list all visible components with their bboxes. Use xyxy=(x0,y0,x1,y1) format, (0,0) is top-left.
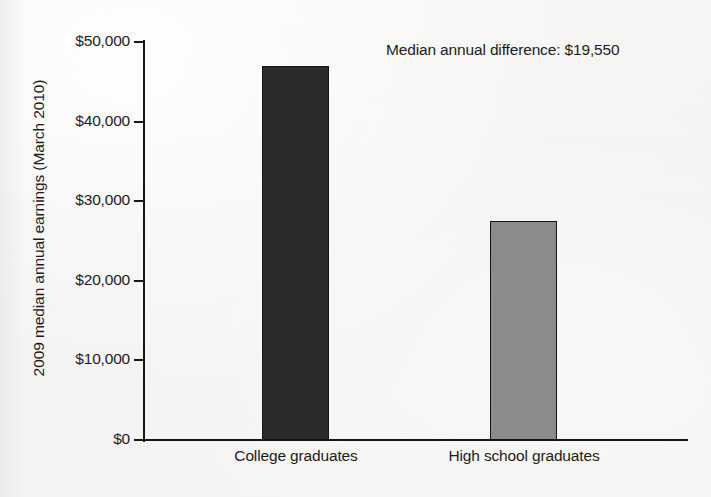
x-axis-label-high-school-graduates: High school graduates xyxy=(414,447,634,465)
y-axis-tick-label-wrap: $0 xyxy=(0,430,130,450)
y-axis-tick-mark xyxy=(134,41,144,43)
y-axis-title: 2009 median annual earnings (March 2010) xyxy=(30,8,70,448)
annotation-median-annual-difference: Median annual difference: $19,550 xyxy=(386,41,619,59)
y-axis-tick-mark xyxy=(134,200,144,202)
bar-chart: 2009 median annual earnings (March 2010)… xyxy=(0,0,711,497)
y-axis-tick-mark xyxy=(134,359,144,361)
y-axis-tick-mark xyxy=(134,439,144,441)
y-axis-tick-label-wrap: $30,000 xyxy=(0,191,130,211)
y-axis-tick-label: $50,000 xyxy=(5,32,130,50)
y-axis-tick-mark xyxy=(134,280,144,282)
y-axis-tick-label-wrap: $10,000 xyxy=(0,350,130,370)
y-axis-tick-label-wrap: $20,000 xyxy=(0,271,130,291)
caption-remnant xyxy=(150,487,600,497)
y-axis-tick-label: $20,000 xyxy=(5,271,130,289)
y-axis-tick-label-wrap: $50,000 xyxy=(0,32,130,52)
y-axis-line xyxy=(143,40,145,442)
x-axis-label-college-graduates: College graduates xyxy=(198,447,394,465)
y-axis-tick-label: $40,000 xyxy=(5,112,130,130)
y-axis-tick-mark xyxy=(134,121,144,123)
x-axis-line xyxy=(143,439,688,441)
y-axis-tick-label: $0 xyxy=(5,430,130,448)
y-axis-tick-label: $10,000 xyxy=(5,350,130,368)
y-axis-tick-label: $30,000 xyxy=(5,191,130,209)
y-axis-tick-label-wrap: $40,000 xyxy=(0,112,130,132)
bar-college-graduates xyxy=(262,66,329,440)
bar-high-school-graduates xyxy=(490,221,557,440)
